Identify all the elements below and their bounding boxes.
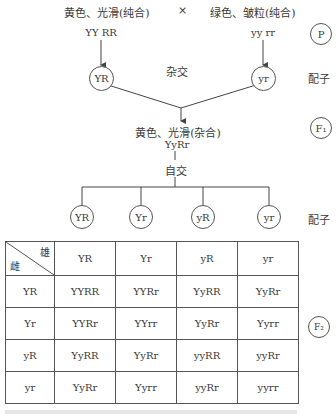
generation-p-label: P — [318, 29, 325, 40]
f1-gamete-circle: YR — [70, 205, 94, 229]
gamete-label: yr — [258, 73, 268, 84]
corner-female-label: 雌 — [10, 258, 20, 273]
genotype-cell: yyRr — [238, 340, 299, 372]
row-header: Yr — [6, 308, 55, 340]
row-header: yR — [6, 340, 55, 372]
parent-left-phenotype: 黄色、光滑(纯合) — [64, 4, 150, 20]
self-cross-label: 自交 — [165, 162, 187, 178]
genotype-cell: YyRr — [177, 308, 238, 340]
genotype-cell: YyRr — [116, 340, 177, 372]
f1-gamete-circle: yR — [191, 205, 215, 229]
cross-symbol: × — [178, 4, 187, 17]
gamete-circle-parent-right: yr — [251, 66, 276, 91]
generation-f1-label: F₁ — [316, 123, 327, 134]
genotype-cell: yyRr — [177, 372, 238, 404]
corner-male-label: 雄 — [40, 244, 50, 259]
col-header: Yr — [116, 242, 177, 276]
f1-genotype: YyRr — [165, 139, 190, 150]
genotype-cell: YyRR — [55, 340, 116, 372]
row-header: yr — [6, 372, 55, 404]
bottom-divider — [5, 410, 297, 414]
table-header-row: 雄 雌 YR Yr yR yr — [6, 242, 299, 276]
gamete-label: yr — [264, 212, 274, 223]
genotype-cell: Yyrr — [116, 372, 177, 404]
table-row: yR YyRR YyRr yyRR yyRr — [6, 340, 299, 372]
generation-f2-label: F₂ — [314, 322, 324, 332]
corner-cell: 雄 雌 — [6, 242, 55, 276]
genotype-cell: YyRr — [238, 276, 299, 308]
f1-gamete-circle: yr — [257, 205, 281, 229]
genotype-cell: yyrr — [238, 372, 299, 404]
generation-p-badge: P — [310, 23, 332, 45]
table-row: YR YYRR YYRr YyRR YyRr — [6, 276, 299, 308]
punnett-square: 雄 雌 YR Yr yR yr YR YYRR YYRr YyRR YyRr Y… — [5, 241, 299, 404]
genotype-cell: YyRR — [177, 276, 238, 308]
parent-right-genotype: yy rr — [251, 27, 275, 38]
cross-label: 杂交 — [166, 63, 188, 79]
genotype-cell: YYrr — [116, 308, 177, 340]
gamete-label: yR — [196, 212, 209, 223]
genotype-cell: yyRR — [177, 340, 238, 372]
genotype-cell: YYRr — [55, 308, 116, 340]
parent-left-genotype: YY RR — [85, 27, 116, 38]
genotype-cell: YYRr — [116, 276, 177, 308]
f1-gamete-circle: Yr — [129, 205, 153, 229]
generation-f1-badge: F₁ — [310, 117, 332, 139]
parent-right-phenotype: 绿色、皱粒(纯合) — [210, 4, 296, 20]
table-row: Yr YYRr YYrr YyRr Yyrr — [6, 308, 299, 340]
row-header: YR — [6, 276, 55, 308]
gamete-side-label-2: 配子 — [308, 211, 330, 227]
genotype-cell: Yyrr — [238, 308, 299, 340]
table-row: yr YyRr Yyrr yyRr yyrr — [6, 372, 299, 404]
genotype-cell: YyRr — [55, 372, 116, 404]
gamete-circle-parent-left: YR — [89, 66, 114, 91]
col-header: YR — [55, 242, 116, 276]
gamete-label: YR — [75, 212, 89, 223]
gamete-label: Yr — [135, 212, 146, 223]
generation-f2-badge: F₂ — [308, 316, 330, 338]
f1-phenotype: 黄色、光滑(杂合) — [135, 124, 221, 140]
col-header: yR — [177, 242, 238, 276]
genotype-cell: YYRR — [55, 276, 116, 308]
col-header: yr — [238, 242, 299, 276]
gamete-side-label-1: 配子 — [308, 70, 330, 86]
gamete-label: YR — [94, 73, 108, 84]
